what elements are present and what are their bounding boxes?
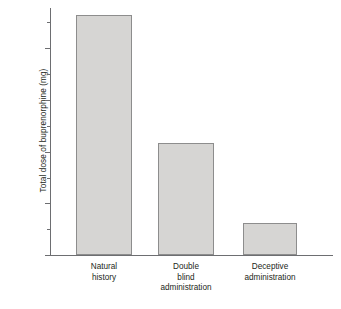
x-label-line: blind: [136, 273, 236, 284]
bar-double-blind-administration[interactable]: [158, 143, 214, 255]
y-minor-tick-10-5: [47, 74, 50, 75]
y-minor-tick-11-5: [47, 22, 50, 23]
y-minor-tick-8-5: [47, 178, 50, 179]
y-axis-title: Total dose of buprenorphine (mg): [39, 31, 48, 231]
plot-area: 7 8 9 10 11 Natural history Double blind…: [50, 8, 340, 256]
y-minor-tick-7-5: [47, 229, 50, 230]
y-tick-8: [45, 203, 50, 204]
x-label-deceptive-administration: Deceptive administration: [222, 262, 318, 283]
x-axis-line: [50, 255, 333, 256]
y-tick-7: [45, 255, 50, 256]
y-tick-11: [45, 48, 50, 49]
x-label-line: Double: [136, 262, 236, 273]
bar-deceptive-administration[interactable]: [243, 223, 297, 255]
y-tick-9: [45, 152, 50, 153]
bar-chart: Total dose of buprenorphine (mg) 7 8 9 1…: [0, 0, 341, 309]
bar-natural-history[interactable]: [76, 15, 132, 255]
y-axis-line: [50, 8, 51, 256]
y-tick-10: [45, 100, 50, 101]
x-label-double-blind-administration: Double blind administration: [136, 262, 236, 294]
x-label-line: administration: [222, 273, 318, 284]
y-minor-tick-9-5: [47, 126, 50, 127]
x-label-line: Deceptive: [222, 262, 318, 273]
x-label-line: administration: [136, 283, 236, 294]
